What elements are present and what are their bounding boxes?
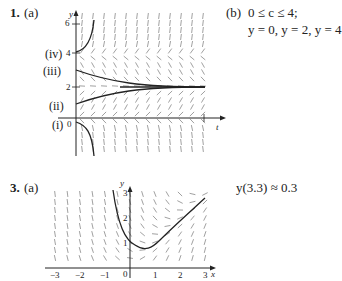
problem-3-answer: y(3.3) ≈ 0.3 (236, 180, 297, 196)
x-tick-neg1: −1 (100, 270, 110, 280)
x-tick-1: 1 (153, 270, 158, 280)
x-tick-0: 0 (123, 269, 128, 279)
x-tick-3: 3 (203, 270, 208, 280)
problem-3-number: 3. (10, 180, 20, 196)
x-axis-label-3: x (211, 269, 215, 279)
y-tick-2-p3: 2 (123, 213, 128, 223)
y-tick-3: 3 (123, 188, 128, 198)
y-tick-1-p3: 1 (123, 238, 128, 248)
x-tick-2: 2 (178, 270, 183, 280)
y-axis-label-3: y (120, 178, 124, 188)
curve-iii (76, 70, 205, 87)
problem-3-part-a: (a) (24, 180, 38, 196)
x-tick-neg3: −3 (50, 270, 60, 280)
x-tick-neg2: −2 (75, 270, 85, 280)
curve-ii (76, 87, 205, 104)
curve-iv (76, 20, 94, 52)
curve-i (76, 122, 94, 156)
